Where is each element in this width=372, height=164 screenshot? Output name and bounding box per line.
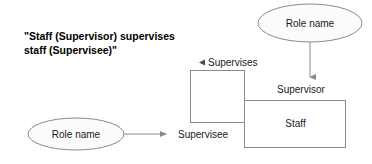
supervisor-label: Supervisor xyxy=(277,83,325,96)
page-title: "Staff (Supervisor) supervises staff (Su… xyxy=(24,30,194,57)
supervises-box[interactable] xyxy=(191,71,245,123)
staff-box-label: Staff xyxy=(245,117,346,130)
supervises-label: Supervises xyxy=(208,56,257,69)
diagram-canvas: "Staff (Supervisor) supervises staff (Su… xyxy=(0,0,372,164)
supervisee-label: Supervisee xyxy=(178,128,228,141)
triangle-left-icon xyxy=(199,60,205,66)
role-name-top-label: Role name xyxy=(258,17,362,30)
role-name-bottom-label: Role name xyxy=(28,128,124,141)
